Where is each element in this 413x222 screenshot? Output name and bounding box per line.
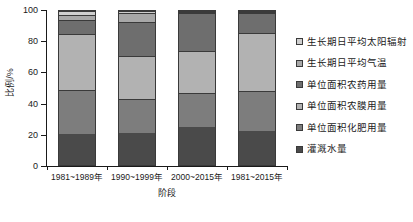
bar-segment bbox=[119, 13, 155, 22]
y-axis-tick-label: 20 bbox=[8, 131, 38, 140]
legend-item[interactable]: 单位面积化肥用量 bbox=[296, 117, 412, 139]
legend-item[interactable]: 生长期日平均气温 bbox=[296, 53, 412, 75]
x-axis-tick bbox=[227, 166, 228, 170]
bar-segment bbox=[179, 51, 215, 92]
legend-item[interactable]: 单位面积农药用量 bbox=[296, 74, 412, 96]
bar-segment bbox=[59, 90, 95, 135]
bar-segment bbox=[239, 91, 275, 131]
legend-swatch-icon bbox=[296, 60, 303, 67]
chart-legend: 生长期日平均太阳辐射生长期日平均气温单位面积农药用量单位面积农膜用量单位面积化肥… bbox=[296, 31, 412, 160]
legend-swatch-icon bbox=[296, 146, 303, 153]
bar-segment bbox=[239, 131, 275, 165]
legend-item-label: 单位面积农药用量 bbox=[307, 80, 387, 90]
y-axis-tick-label: 40 bbox=[8, 100, 38, 109]
bar-4 bbox=[238, 10, 276, 166]
legend-item-label: 生长期日平均气温 bbox=[307, 58, 387, 68]
x-axis-tick bbox=[47, 166, 48, 170]
legend-item-label: 生长期日平均太阳辐射 bbox=[307, 37, 407, 47]
x-axis-tick bbox=[107, 166, 108, 170]
legend-swatch-icon bbox=[296, 38, 303, 45]
x-axis-tick-label: 1981~2015年 bbox=[222, 172, 292, 182]
y-axis-tick-label: 80 bbox=[8, 37, 38, 46]
stacked-bar-chart-figure: 比例/% 020406080100 1981~1989年1990~1999年20… bbox=[0, 0, 413, 222]
bar-segment bbox=[59, 134, 95, 165]
legend-item[interactable]: 生长期日平均太阳辐射 bbox=[296, 31, 412, 53]
bar-segment bbox=[59, 20, 95, 34]
bar-segment bbox=[239, 33, 275, 91]
y-axis-tick bbox=[41, 104, 46, 105]
y-axis-tick bbox=[41, 10, 46, 11]
y-axis-tick-label: 60 bbox=[8, 68, 38, 77]
bar-segment bbox=[59, 34, 95, 89]
y-axis-tick-label: 0 bbox=[8, 162, 38, 171]
bar-segment bbox=[239, 13, 275, 33]
y-axis-tick bbox=[41, 166, 46, 167]
y-axis-tick bbox=[41, 41, 46, 42]
bar-segment bbox=[119, 56, 155, 99]
x-axis-title: 阶段 bbox=[46, 186, 288, 199]
bar-segment bbox=[119, 133, 155, 165]
legend-item-label: 单位面积化肥用量 bbox=[307, 123, 387, 133]
bar-1 bbox=[58, 10, 96, 166]
bar-segment bbox=[119, 99, 155, 133]
legend-item[interactable]: 单位面积农膜用量 bbox=[296, 96, 412, 118]
y-axis-tick bbox=[41, 72, 46, 73]
legend-swatch-icon bbox=[296, 103, 303, 110]
legend-item-label: 单位面积农膜用量 bbox=[307, 101, 387, 111]
plot-area bbox=[47, 10, 287, 166]
bar-segment bbox=[179, 127, 215, 165]
bar-2 bbox=[118, 10, 156, 166]
legend-item-label: 灌溉水量 bbox=[307, 144, 347, 154]
legend-swatch-icon bbox=[296, 81, 303, 88]
legend-swatch-icon bbox=[296, 124, 303, 131]
bar-3 bbox=[178, 10, 216, 166]
x-axis-tick bbox=[167, 166, 168, 170]
y-axis-tick-label: 100 bbox=[8, 6, 38, 15]
y-axis-tick bbox=[41, 135, 46, 136]
legend-item[interactable]: 灌溉水量 bbox=[296, 139, 412, 161]
bar-segment bbox=[179, 93, 215, 127]
x-axis-tick bbox=[287, 166, 288, 170]
bar-segment bbox=[179, 13, 215, 51]
bar-segment bbox=[119, 22, 155, 56]
